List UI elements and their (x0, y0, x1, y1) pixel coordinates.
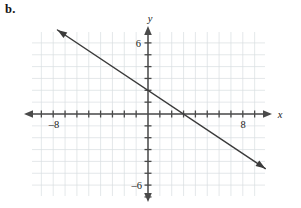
coordinate-plane: –8 8 6 –6 x y (0, 0, 301, 208)
y-tick-label-neg6: –6 (131, 180, 143, 191)
line-start-arrow-icon (58, 30, 68, 38)
x-tick-label-8: 8 (240, 119, 245, 130)
y-tick-label-6: 6 (136, 38, 141, 49)
x-axis-right-arrow-icon (263, 110, 272, 118)
x-axis-label: x (277, 109, 283, 120)
graph-figure: b. –8 8 6 –6 x y (0, 0, 301, 208)
x-tick-label-neg8: –8 (48, 119, 60, 130)
x-axis-left-arrow-icon (24, 110, 33, 118)
y-axis-label: y (147, 13, 153, 24)
y-axis-top-arrow-icon (144, 26, 152, 35)
part-label: b. (5, 3, 15, 16)
